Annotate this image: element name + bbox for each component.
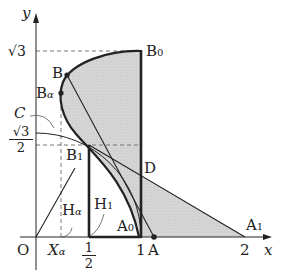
label-D: D bbox=[144, 161, 156, 176]
x-axis-label: x bbox=[264, 243, 272, 258]
label-A1: A1 bbox=[246, 218, 263, 233]
tick-sqrt3: √3 bbox=[8, 44, 26, 58]
y-axis-label: y bbox=[22, 6, 30, 21]
label-H1: H1 bbox=[94, 197, 113, 212]
label-C: C bbox=[14, 106, 25, 121]
label-B1: B1 bbox=[66, 148, 83, 163]
origin-label: O bbox=[17, 243, 29, 258]
tick-one: 1 bbox=[136, 243, 146, 258]
leader-Halpha bbox=[62, 228, 72, 237]
label-B: B bbox=[52, 66, 63, 81]
tick-two: 2 bbox=[240, 243, 250, 258]
label-Balpha: Bα bbox=[36, 86, 54, 101]
point-A bbox=[151, 234, 157, 240]
tick-Xalpha: Xα bbox=[48, 243, 65, 258]
x-axis-arrow-icon bbox=[263, 234, 272, 240]
label-B0: B0 bbox=[146, 44, 163, 59]
tick-half: 1 2 bbox=[82, 241, 96, 270]
label-Halpha: Hα bbox=[62, 203, 82, 218]
leader-C bbox=[30, 115, 54, 128]
figure-canvas bbox=[0, 0, 281, 277]
tick-sqrt3-half: √3 2 bbox=[9, 125, 33, 154]
point-Balpha bbox=[58, 90, 63, 95]
label-A0: A0 bbox=[117, 219, 134, 234]
geometry-figure: y x O √3 √3 2 Xα 1 2 1 2 B0 B Bα C B1 D … bbox=[0, 0, 281, 277]
leader-H1 bbox=[90, 214, 104, 236]
point-B bbox=[64, 72, 69, 77]
y-axis-arrow-icon bbox=[33, 13, 39, 23]
label-A: A bbox=[148, 243, 159, 258]
